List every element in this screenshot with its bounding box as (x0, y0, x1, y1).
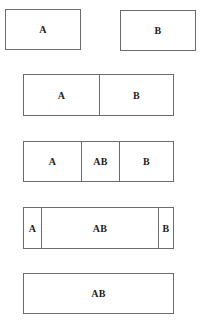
box-adjacent: A B (23, 74, 174, 116)
region-a: A (24, 142, 81, 181)
label-ab: AB (93, 223, 107, 234)
label-a: A (29, 223, 36, 234)
label-b: B (155, 25, 162, 36)
label-ab: AB (93, 156, 107, 167)
label-a: A (58, 90, 65, 101)
label-b: B (163, 223, 170, 234)
region-a: A (24, 208, 41, 248)
label-b: B (133, 90, 140, 101)
region-a: A (24, 75, 99, 115)
region-b: B (119, 142, 173, 181)
box-b-separate: B (120, 10, 196, 51)
region-ab: AB (81, 142, 119, 181)
box-partial-overlap: A AB B (23, 141, 174, 182)
region-b: B (99, 75, 173, 115)
region-ab: AB (41, 208, 158, 248)
box-large-overlap: A AB B (23, 207, 174, 249)
region-b: B (121, 11, 195, 50)
label-a: A (49, 156, 56, 167)
label-ab: AB (91, 288, 105, 299)
label-b: B (143, 156, 150, 167)
box-full-overlap: AB (23, 273, 174, 314)
region-a: A (6, 10, 80, 49)
region-b: B (158, 208, 173, 248)
label-a: A (39, 24, 46, 35)
region-ab: AB (24, 274, 173, 313)
box-a-separate: A (5, 9, 81, 50)
